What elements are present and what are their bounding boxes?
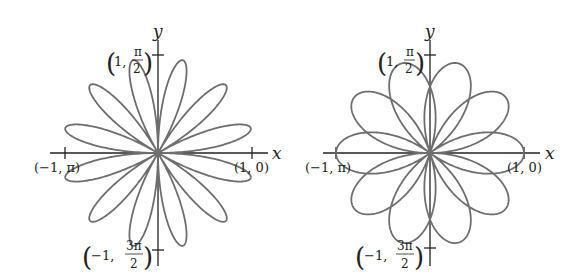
right-point-1-pi-over-2: ( 1, π 2 ) [377,45,425,78]
left-point-neg1-3pi-over-2: ( −1, 3π 2 ) [82,239,153,272]
label-num: 3π [397,239,413,253]
polar-graphs: x y (1, 0) (−1, π) ( 1, π 2 ) ( −1, 3π 2… [0,0,582,279]
label-den: 2 [405,62,413,76]
label-a: −1, [364,248,387,263]
label-num: π [134,45,142,59]
label-a: 1, [386,54,398,69]
label-den: 2 [130,257,138,271]
right-point-neg1-3pi-over-2: ( −1, 3π 2 ) [355,239,424,272]
left-point-neg1-pi: (−1, π) [34,160,80,175]
left-point-1-0: (1, 0) [234,160,269,175]
right-point-1-0: (1, 0) [507,160,542,175]
left-graph: x y (1, 0) (−1, π) ( 1, π 2 ) ( −1, 3π 2… [34,21,282,272]
label-den: 2 [401,257,409,271]
right-graph: x y (1, 0) (−1, π) ( 1, π 2 ) ( −1, 3π 2… [305,21,555,272]
paren-close: ) [415,48,425,78]
left-x-label: x [272,143,282,163]
paren-close: ) [143,242,153,272]
left-y-label: y [152,21,163,41]
paren-close: ) [143,48,153,78]
label-a: 1, [114,54,126,69]
label-num: π [406,45,414,59]
label-a: −1, [91,248,114,263]
right-point-neg1-pi: (−1, π) [305,160,351,175]
right-x-label: x [545,143,555,163]
label-den: 2 [133,62,141,76]
right-y-label: y [424,21,435,41]
paren-close: ) [414,242,424,272]
label-num: 3π [126,239,142,253]
